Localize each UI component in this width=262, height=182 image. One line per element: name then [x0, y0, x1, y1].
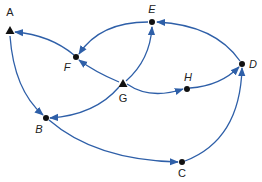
node-a: A — [6, 6, 15, 34]
edge-g-to-h — [127, 84, 183, 93]
edge-a-to-b — [10, 36, 43, 115]
edge-f-to-a — [15, 32, 74, 55]
dot-node-icon — [73, 54, 79, 60]
dot-node-icon — [149, 19, 155, 25]
dot-node-icon — [184, 86, 190, 92]
node-f: F — [64, 54, 79, 73]
edge-g-to-b — [50, 87, 119, 118]
node-label: D — [249, 58, 257, 70]
edge-c-to-d — [185, 68, 242, 161]
node-h: H — [184, 71, 192, 92]
edge-h-to-d — [190, 67, 239, 88]
nodes-group: AEFGHDBC — [6, 3, 258, 179]
node-g: G — [119, 79, 128, 104]
node-label: C — [178, 167, 186, 179]
node-label: B — [35, 123, 42, 135]
node-label: F — [64, 61, 72, 73]
node-label: E — [148, 3, 156, 15]
node-c: C — [178, 159, 186, 179]
edge-g-to-e — [126, 27, 152, 81]
node-b: B — [35, 115, 49, 135]
edge-d-to-e — [157, 22, 240, 61]
edge-g-to-f — [79, 60, 119, 82]
dot-node-icon — [43, 115, 49, 121]
edge-e-to-f — [79, 22, 148, 54]
directed-graph: AEFGHDBC — [0, 0, 262, 182]
dot-node-icon — [179, 159, 185, 165]
edge-b-to-c — [49, 120, 178, 162]
node-label: G — [119, 92, 128, 104]
node-e: E — [148, 3, 156, 25]
dot-node-icon — [239, 61, 245, 67]
node-label: A — [6, 6, 14, 18]
node-label: H — [184, 71, 192, 83]
triangle-node-icon — [6, 26, 15, 34]
